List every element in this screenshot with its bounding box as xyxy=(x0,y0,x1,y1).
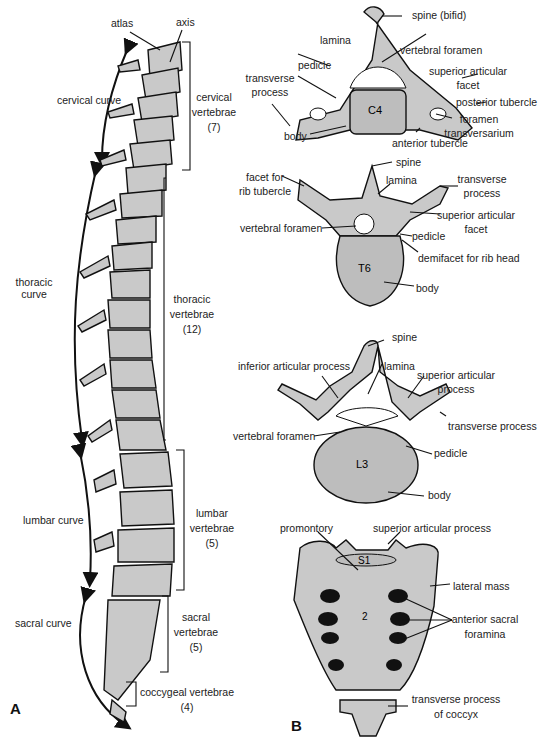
label-cervical-curve: cervical curve xyxy=(57,94,121,106)
label-c4-lamina: lamina xyxy=(320,34,351,46)
label-c4-transverse-process: transverse process xyxy=(245,71,294,99)
lumbar-bracket xyxy=(176,450,184,590)
l3-tag: L3 xyxy=(356,458,368,470)
label-t6-vertebral-foramen: vertebral foramen xyxy=(240,222,322,234)
label-line: (12) xyxy=(170,322,214,337)
label-t6-spine: spine xyxy=(396,156,421,168)
label-line: process xyxy=(245,85,294,99)
label-line: superior articular xyxy=(429,64,507,78)
label-line: facet xyxy=(429,78,507,92)
s2-tag: 2 xyxy=(362,611,368,622)
thoracic-bracket xyxy=(164,178,166,440)
label-line: thoracic xyxy=(170,292,214,307)
label-line: superior articular xyxy=(417,368,495,382)
label-line: (5) xyxy=(174,640,218,655)
label-c4-spine: spine (bifid) xyxy=(412,9,466,21)
label-t6-transverse-process: transverse process xyxy=(457,172,506,200)
label-line: transverse process xyxy=(412,692,501,707)
label-line: facet xyxy=(437,222,515,236)
label-c4-vertebral-foramen: vertebral foramen xyxy=(400,44,482,56)
label-sacral-curve: sacral curve xyxy=(15,617,72,629)
label-sacral-vertebrae: sacral vertebrae (5) xyxy=(174,610,218,655)
label-c4-anterior-tubercle: anterior tubercle xyxy=(392,137,468,149)
vertebra-stack xyxy=(78,42,182,722)
label-l3-superior-articular-process: superior articular process xyxy=(417,368,495,396)
label-line: foramina xyxy=(452,627,519,642)
label-atlas: atlas xyxy=(111,17,133,29)
label-line: (5) xyxy=(190,536,234,551)
label-l3-lamina: lamina xyxy=(384,360,415,372)
label-thoracic-curve: thoracic curve xyxy=(16,276,53,300)
label-coccygeal-vertebrae: coccygeal vertebrae (4) xyxy=(140,685,234,715)
label-c4-superior-articular-facet: superior articular facet xyxy=(429,64,507,92)
label-line: anterior sacral xyxy=(452,612,519,627)
label-line: process xyxy=(417,382,495,396)
label-line: of coccyx xyxy=(412,707,501,722)
label-line: vertebrae xyxy=(174,625,218,640)
label-line: vertebrae xyxy=(170,307,214,322)
label-l3-body: body xyxy=(428,489,451,501)
label-transverse-process-coccyx: transverse process of coccyx xyxy=(412,692,501,722)
label-axis: axis xyxy=(176,16,195,28)
label-sacrum-superior-articular-process: superior articular process xyxy=(373,522,491,534)
label-line: (4) xyxy=(140,700,234,715)
cervical-bracket xyxy=(182,42,190,170)
label-t6-facet-rib-tubercle: facet for rib tubercle xyxy=(239,170,291,198)
label-t6-lamina: lamina xyxy=(386,174,417,186)
label-line: vertebrae xyxy=(190,521,234,536)
label-line: transverse xyxy=(457,172,506,186)
label-c4-body: body xyxy=(284,130,307,142)
label-c4-pedicle: pedicle xyxy=(298,59,331,71)
label-sacrum-lateral-mass: lateral mass xyxy=(453,580,510,592)
label-t6-pedicle: pedicle xyxy=(412,230,445,242)
label-line: transverse xyxy=(245,71,294,85)
label-lumbar-curve: lumbar curve xyxy=(23,514,84,526)
label-line: cervical xyxy=(192,90,236,105)
label-t6-body: body xyxy=(416,282,439,294)
panel-letter-a: A xyxy=(10,700,21,717)
label-l3-transverse-process: transverse process xyxy=(448,420,537,432)
label-l3-vertebral-foramen: vertebral foramen xyxy=(233,430,315,442)
panel-letter-b: B xyxy=(291,717,302,734)
label-sacrum-promontory: promontory xyxy=(280,522,333,534)
label-cervical-vertebrae: cervical vertebrae (7) xyxy=(192,90,236,135)
label-l3-pedicle: pedicle xyxy=(434,447,467,459)
label-line: (7) xyxy=(192,120,236,135)
label-c4-foramen-transversarium: foramen transversarium xyxy=(444,112,513,140)
label-line: sacral xyxy=(174,610,218,625)
label-l3-inferior-articular-process: inferior articular process xyxy=(238,360,350,372)
sacral-bracket xyxy=(160,596,168,672)
label-c4-posterior-tubercle: posterior tubercle xyxy=(456,96,537,108)
vertebral-column-lateral xyxy=(75,30,190,725)
label-thoracic-vertebrae: thoracic vertebrae (12) xyxy=(170,292,214,337)
c4-tag: C4 xyxy=(368,104,382,116)
label-line: vertebrae xyxy=(192,105,236,120)
label-lumbar-vertebrae: lumbar vertebrae (5) xyxy=(190,506,234,551)
label-line: curve xyxy=(16,288,53,300)
s1-tag: S1 xyxy=(358,555,371,566)
atlas-leader xyxy=(130,32,160,50)
label-line: facet for xyxy=(239,170,291,184)
label-anterior-sacral-foramina: anterior sacral foramina xyxy=(452,612,519,642)
label-line: foramen xyxy=(444,112,513,126)
label-line: thoracic xyxy=(16,276,53,288)
label-line: coccygeal vertebrae xyxy=(140,685,234,700)
label-line: lumbar xyxy=(190,506,234,521)
label-line: process xyxy=(457,186,506,200)
label-t6-superior-articular-facet: superior articular facet xyxy=(437,208,515,236)
label-line: superior articular xyxy=(437,208,515,222)
t6-tag: T6 xyxy=(358,262,371,274)
label-line: rib tubercle xyxy=(239,184,291,198)
label-t6-demifacet: demifacet for rib head xyxy=(418,252,520,264)
label-l3-spine: spine xyxy=(392,331,417,343)
